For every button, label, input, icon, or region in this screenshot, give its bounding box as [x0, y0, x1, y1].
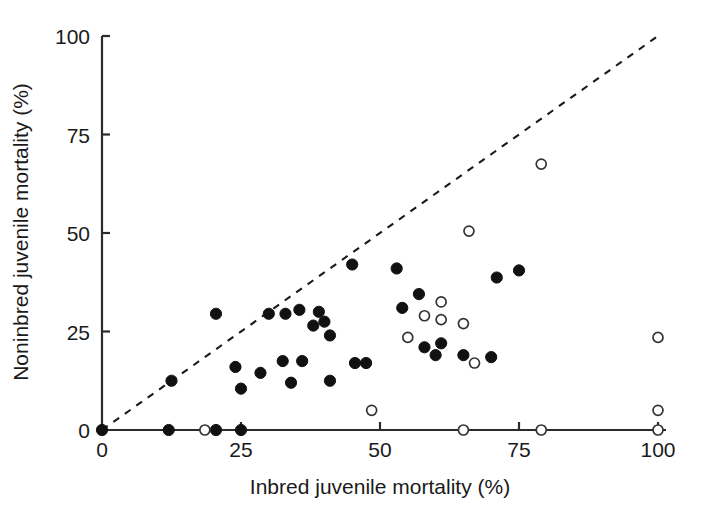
x-tick-label-100: 100 [640, 438, 675, 461]
scatter-plot-canvas: 02550751000255075100 Inbred juvenile mor… [0, 0, 704, 511]
data-point-filled [277, 355, 288, 366]
data-point-filled [235, 383, 246, 394]
data-point-filled [430, 350, 441, 361]
data-point-filled [324, 330, 335, 341]
data-point-open [653, 425, 663, 435]
data-point-open [464, 226, 474, 236]
identity-reference-line [102, 36, 658, 430]
data-point-filled [96, 424, 107, 435]
data-point-filled [313, 306, 324, 317]
x-axis-title: Inbred juvenile mortality (%) [250, 475, 510, 498]
scatter-plot-figure: 02550751000255075100 Inbred juvenile mor… [0, 0, 704, 511]
y-tick-label-50: 50 [67, 222, 90, 245]
y-tick-label-75: 75 [67, 124, 90, 147]
y-tick-label-25: 25 [67, 321, 90, 344]
data-point-filled [419, 342, 430, 353]
data-point-filled [230, 361, 241, 372]
data-point-filled [163, 424, 174, 435]
data-point-open [653, 405, 663, 415]
data-point-filled [294, 304, 305, 315]
data-point-open [436, 297, 446, 307]
x-tick-label-0: 0 [96, 438, 108, 461]
data-point-filled [324, 375, 335, 386]
data-point-filled [349, 357, 360, 368]
data-point-filled [255, 367, 266, 378]
x-tick-label-75: 75 [507, 438, 530, 461]
data-point-filled [210, 424, 221, 435]
data-point-filled [210, 308, 221, 319]
data-point-open [458, 425, 468, 435]
data-point-open [536, 159, 546, 169]
data-point-filled [491, 272, 502, 283]
y-axis-title: Noninbred juvenile mortality (%) [9, 83, 32, 381]
y-tick-label-0: 0 [78, 419, 90, 442]
data-point-filled [513, 265, 524, 276]
data-point-filled [285, 377, 296, 388]
data-point-filled [458, 350, 469, 361]
data-point-filled [166, 375, 177, 386]
data-point-filled [361, 357, 372, 368]
y-tick-label-100: 100 [55, 25, 90, 48]
data-point-filled [436, 338, 447, 349]
data-point-filled [319, 316, 330, 327]
data-point-filled [413, 288, 424, 299]
data-point-open [436, 315, 446, 325]
data-point-filled [263, 308, 274, 319]
data-point-open [200, 425, 210, 435]
data-point-filled [235, 424, 246, 435]
data-point-filled [397, 302, 408, 313]
data-point-open [536, 425, 546, 435]
data-point-open [403, 332, 413, 342]
data-point-filled [297, 355, 308, 366]
x-tick-label-25: 25 [229, 438, 252, 461]
data-point-open [653, 332, 663, 342]
data-point-open [458, 319, 468, 329]
data-point-filled [347, 259, 358, 270]
data-point-filled [308, 320, 319, 331]
data-point-open [470, 358, 480, 368]
identity-reference-line [102, 36, 658, 430]
data-point-filled [486, 352, 497, 363]
data-point-filled [391, 263, 402, 274]
data-point-open [367, 405, 377, 415]
x-tick-label-50: 50 [368, 438, 391, 461]
data-points [96, 159, 663, 436]
data-point-filled [280, 308, 291, 319]
data-point-open [419, 311, 429, 321]
